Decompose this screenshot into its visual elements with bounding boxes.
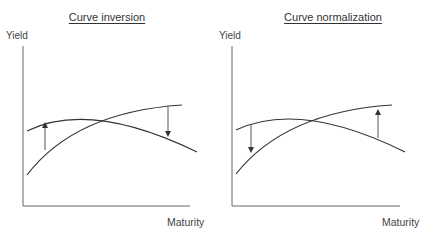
yield-curve-diagram [0,0,215,236]
panel-curve-inversion: Curve inversion Yield Maturity [0,0,215,236]
rising-curve [27,105,182,175]
humped-curve [236,119,405,152]
humped-curve [27,119,197,152]
yield-curve-diagram [215,0,430,236]
rising-curve [236,105,392,174]
panel-curve-normalization: Curve normalization Yield Maturity [215,0,430,236]
